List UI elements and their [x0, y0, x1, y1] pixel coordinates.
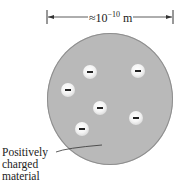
material-label: Positively charged material	[2, 146, 48, 182]
label-line: charged	[2, 158, 48, 170]
label-line: Positively	[2, 146, 48, 158]
label-line: material	[2, 170, 48, 182]
